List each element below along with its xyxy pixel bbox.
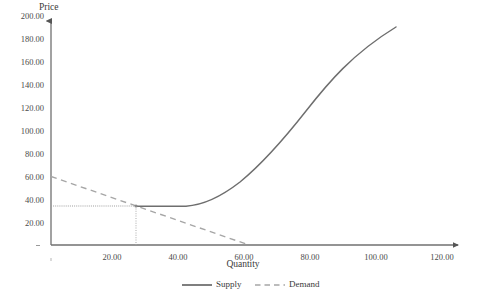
demand-curve (51, 177, 249, 246)
x-tick-60: 60.00 (220, 252, 268, 262)
supply-demand-chart: Price Quantity 20.00 40.00 60.00 80.00 1… (0, 0, 479, 297)
x-tick-80: 80.00 (286, 252, 334, 262)
x-tick-100: 100.00 (352, 252, 400, 262)
y-tick-200: 200.00 (0, 11, 44, 21)
y-tick-40: 40.00 (0, 195, 44, 205)
supply-curve (136, 27, 396, 206)
x-tick-40: 40.00 (154, 252, 202, 262)
equilibrium-point (134, 204, 137, 207)
legend-item-supply: Supply (216, 279, 242, 289)
y-tick-160: 160.00 (0, 57, 44, 67)
x-tick-20: 20.00 (88, 252, 136, 262)
y-tick-100: 100.00 (0, 126, 44, 136)
legend-item-demand: Demand (289, 279, 320, 289)
y-tick-180: 180.00 (0, 34, 44, 44)
x-tick-120: 120.00 (418, 252, 466, 262)
y-tick-140: 140.00 (0, 80, 44, 90)
y-tick-60: 60.00 (0, 172, 44, 182)
y-tick-20: 20.00 (0, 218, 44, 228)
y-tick-80: 80.00 (0, 149, 44, 159)
y-tick-120: 120.00 (0, 103, 44, 113)
